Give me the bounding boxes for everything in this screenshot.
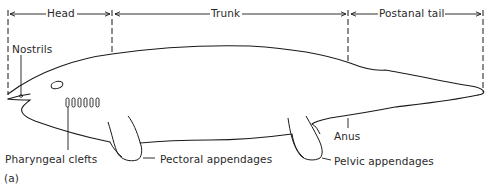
body-outline <box>8 46 484 143</box>
eye <box>50 80 63 90</box>
annotation-anus: Anus <box>334 130 360 142</box>
region-boundaries <box>8 10 483 95</box>
annotation-nostrils: Nostrils <box>12 43 52 55</box>
pelvic-leader-line <box>322 158 331 160</box>
pectoral-appendage <box>108 116 142 161</box>
annotation-pelvic-appendages: Pelvic appendages <box>334 155 434 167</box>
annotation-pharyngeal-clefts: Pharyngeal clefts <box>5 153 97 165</box>
pharyngeal-clefts <box>66 98 99 107</box>
pelvic-appendage <box>288 116 322 160</box>
region-label-head: Head <box>46 7 76 19</box>
panel-label: (a) <box>4 172 19 184</box>
vertebrate-body-plan-diagram: Head Trunk Postanal tail Nostrils Pharyn… <box>0 0 490 187</box>
annotation-pectoral-appendages: Pectoral appendages <box>160 153 272 165</box>
region-label-postanal-tail: Postanal tail <box>378 7 445 19</box>
region-label-trunk: Trunk <box>210 7 241 19</box>
